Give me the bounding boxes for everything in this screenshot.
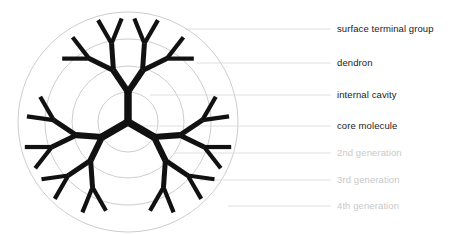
branch-gen2 [76,135,102,137]
label-core-molecule: core molecule [337,121,397,131]
branch-gen2 [154,135,180,137]
branch-gen3 [163,160,165,187]
label-3rd-generation: 3rd generation [337,175,400,185]
branch-gen3 [112,44,114,71]
label-dendron: dendron [337,58,373,68]
branch-gen3 [91,160,93,187]
branch-gen3 [143,44,145,71]
label-internal-cavity: internal cavity [337,90,397,100]
label-2nd-generation: 2nd generation [337,148,402,158]
label-4th-generation: 4th generation [337,201,399,211]
dendrimer-diagram [0,0,455,234]
label-surface-terminal-group: surface terminal group [337,24,434,34]
